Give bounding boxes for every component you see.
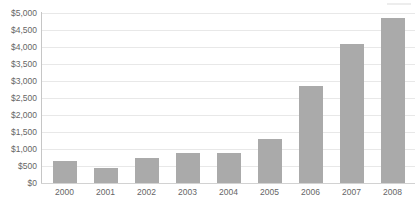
bar bbox=[299, 86, 323, 183]
bar bbox=[217, 153, 241, 183]
x-axis-tick-label: 2001 bbox=[85, 187, 126, 197]
y-axis-tick-label: $2,500 bbox=[0, 94, 37, 103]
y-axis-tick-label: $4,000 bbox=[0, 43, 37, 52]
bar bbox=[53, 161, 77, 183]
x-axis-tick-label: 2004 bbox=[208, 187, 249, 197]
bars-layer bbox=[41, 13, 415, 183]
y-axis-tick-label: $4,500 bbox=[0, 26, 37, 35]
bar-chart: $5,000$4,500$4,000$3,500$3,000$2,500$2,0… bbox=[0, 0, 415, 206]
y-axis-tick-label: $500 bbox=[0, 162, 37, 171]
x-axis-tick-label: 2000 bbox=[44, 187, 85, 197]
y-axis-tick-label: $3,000 bbox=[0, 77, 37, 86]
x-axis-tick-label: 2006 bbox=[290, 187, 331, 197]
bar bbox=[340, 44, 364, 183]
x-axis-tick-label: 2002 bbox=[126, 187, 167, 197]
y-axis-tick-label: $1,000 bbox=[0, 145, 37, 154]
bar bbox=[381, 18, 405, 183]
bar bbox=[176, 153, 200, 183]
x-axis-tick-label: 2005 bbox=[249, 187, 290, 197]
x-axis-tick-label: 2008 bbox=[372, 187, 413, 197]
x-axis-line bbox=[41, 183, 415, 184]
y-axis-tick-label: $3,500 bbox=[0, 60, 37, 69]
bar bbox=[94, 168, 118, 183]
bar bbox=[258, 139, 282, 183]
y-axis-tick-labels: $5,000$4,500$4,000$3,500$3,000$2,500$2,0… bbox=[0, 0, 37, 206]
y-axis-tick-label: $5,000 bbox=[0, 9, 37, 18]
x-axis-tick-labels: 200020012002200320042005200620072008 bbox=[41, 187, 415, 201]
x-axis-tick-label: 2003 bbox=[167, 187, 208, 197]
bar bbox=[135, 158, 159, 184]
cropped-header-artifact bbox=[296, 0, 415, 5]
x-axis-tick-label: 2007 bbox=[331, 187, 372, 197]
y-axis-tick-label: $0 bbox=[0, 179, 37, 188]
cropped-header-block bbox=[387, 3, 411, 5]
y-axis-tick-label: $2,000 bbox=[0, 111, 37, 120]
y-axis-tick-label: $1,500 bbox=[0, 128, 37, 137]
